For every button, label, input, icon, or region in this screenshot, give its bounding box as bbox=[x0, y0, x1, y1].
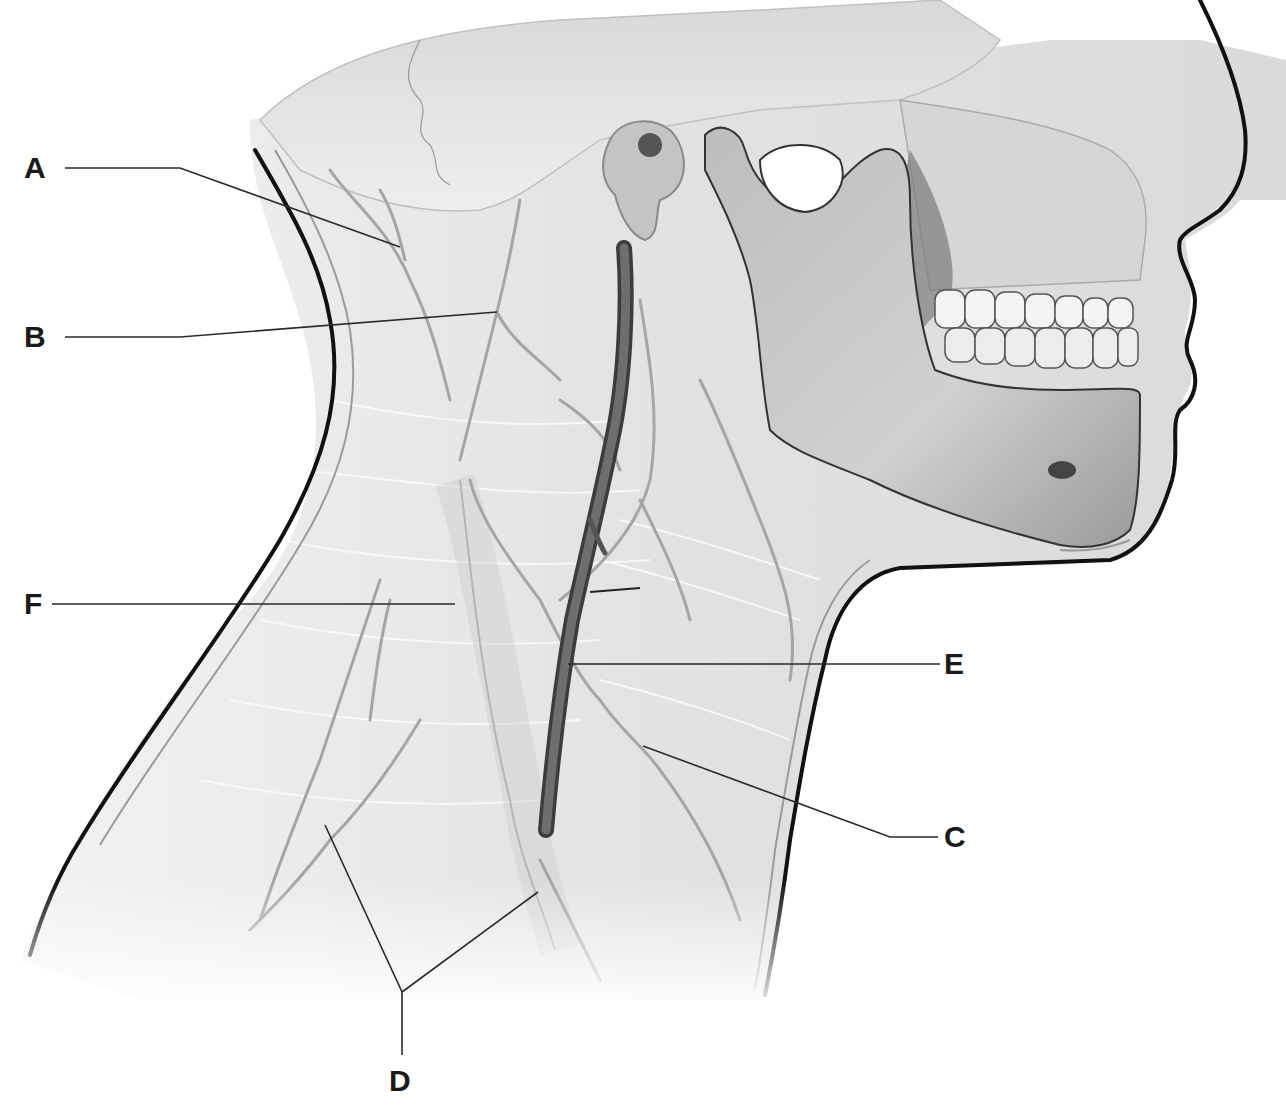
label-c: C bbox=[944, 822, 966, 852]
label-e: E bbox=[944, 649, 964, 679]
illustration bbox=[0, 0, 1286, 1119]
label-b: B bbox=[24, 322, 46, 352]
anatomy-diagram: A B F E C D bbox=[0, 0, 1286, 1119]
label-d: D bbox=[389, 1066, 411, 1096]
label-f: F bbox=[24, 589, 42, 619]
label-a: A bbox=[24, 153, 46, 183]
